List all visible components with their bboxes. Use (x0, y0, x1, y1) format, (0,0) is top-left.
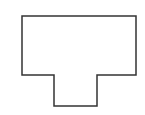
diagram-canvas (0, 0, 145, 115)
